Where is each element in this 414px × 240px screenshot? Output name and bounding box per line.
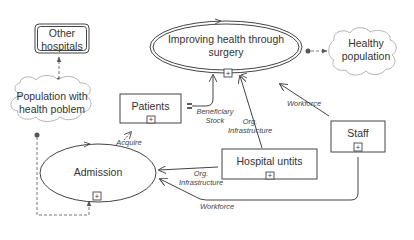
hospital-units-label: Hospital untits [222,155,317,168]
svg-text:+: + [149,115,154,124]
other-hospitals-label-line2: hospitals [35,40,89,53]
org-infrastructure-bottom-line1: Org. [176,169,226,178]
healthy-population-label-line2: population [336,50,396,63]
improving-health-label: Improving health through surgery [160,33,292,58]
patients-label: Patients [120,100,181,113]
healthy-population-label-line1: Healthy [336,37,396,50]
acquire-label: Acquire [112,138,146,147]
other-hospitals-label-line1: Other [35,27,89,40]
org-infrastructure-top-link [240,76,262,148]
population-label-line1: Population with [10,90,94,103]
svg-text:+: + [226,69,231,78]
beneficiary-stock-line1: Beneficiary [190,107,240,116]
healthy-population-label: Healthy population [336,37,396,62]
population-label: Population with health poblem [10,90,94,115]
org-infrastructure-top-line1: Org. [224,117,276,126]
org-infrastructure-bottom-label: Org. Infrastructure [176,169,226,187]
beneficiary-stock-link [187,75,213,108]
population-label-line2: health poblem [10,103,94,116]
svg-text:+: + [356,143,361,152]
svg-text:+: + [268,171,273,180]
improving-health-label-line1: Improving health through [160,33,292,46]
admission-label: Admission [50,166,146,179]
workforce-top-label: Workforce [284,99,324,108]
svg-text:+: + [95,192,100,201]
improving-health-label-line2: surgery [160,46,292,59]
org-infrastructure-top-line2: Infrastructure [224,126,276,135]
staff-label: Staff [331,127,385,140]
org-infrastructure-bottom-line2: Infrastructure [176,178,226,187]
workforce-bottom-label: Workforce [197,202,237,211]
other-hospitals-label: Other hospitals [35,27,89,52]
org-infrastructure-top-label: Org. Infrastructure [224,117,276,135]
dashed-link-to-healthy-population [306,49,328,54]
